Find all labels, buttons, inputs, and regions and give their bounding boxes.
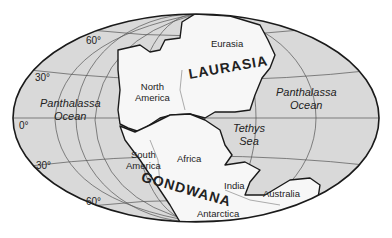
ocean-label-tethys: TethysSea — [233, 122, 265, 148]
label-north-america: NorthAmerica — [135, 81, 170, 103]
lat-label-60s: 60° — [86, 197, 101, 207]
label-africa: Africa — [177, 153, 201, 164]
ocean-label-panthalassa-west: PanthalassaOcean — [40, 97, 101, 123]
label-india: India — [224, 180, 245, 191]
label-eurasia: Eurasia — [211, 38, 243, 49]
label-antarctica: Antarctica — [197, 208, 239, 219]
lat-label-30s: 30° — [36, 161, 51, 171]
lat-label-30n: 30° — [35, 73, 50, 83]
pangaea-map: 60° 30° 0° 30° 60° PanthalassaOcean Pant… — [0, 0, 392, 238]
lat-label-60n: 60° — [86, 36, 101, 46]
label-australia: Australia — [263, 188, 300, 199]
ocean-label-panthalassa-east: PanthalassaOcean — [276, 86, 337, 112]
label-south-america: SouthAmerica — [126, 149, 161, 171]
lat-label-0: 0° — [19, 121, 29, 131]
